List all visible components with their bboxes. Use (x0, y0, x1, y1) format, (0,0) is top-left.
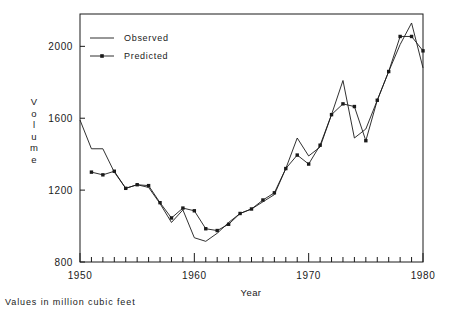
y-axis-title-letter: V (26, 96, 42, 108)
series-marker-predicted (227, 223, 230, 226)
series-marker-predicted (124, 187, 127, 190)
chart-figure: 1950196019701980 800120016002000 Observe… (0, 0, 459, 320)
x-tick-label: 1950 (68, 270, 93, 281)
y-axis-title-letter: o (26, 108, 42, 120)
y-axis-title-letter: e (26, 154, 42, 166)
series-marker-predicted (364, 139, 367, 142)
y-axis-title-letter: l (26, 119, 42, 131)
series-marker-predicted (398, 35, 401, 38)
series-marker-predicted (296, 153, 299, 156)
volume-line-chart: 1950196019701980 800120016002000 Observe… (0, 0, 459, 320)
series-marker-predicted (170, 216, 173, 219)
series-marker-predicted (204, 227, 207, 230)
series-marker-predicted (261, 198, 264, 201)
series-marker-predicted (307, 162, 310, 165)
x-tick-label: 1980 (411, 270, 436, 281)
series-marker-predicted (135, 183, 138, 186)
series-marker-predicted (341, 102, 344, 105)
series-marker-predicted (147, 184, 150, 187)
x-axis-title: Year (241, 287, 262, 298)
legend-label-observed: Observed (124, 33, 169, 43)
legend-label-predicted: Predicted (124, 51, 168, 61)
series-marker-predicted (353, 105, 356, 108)
x-tick-label: 1960 (182, 270, 207, 281)
series-marker-predicted (284, 167, 287, 170)
series-marker-predicted (421, 49, 424, 52)
series-marker-predicted (330, 113, 333, 116)
series-marker-predicted (410, 35, 413, 38)
y-tick-label: 800 (55, 257, 74, 268)
y-tick-label: 1600 (48, 113, 73, 124)
legend-swatch-marker-predicted (100, 54, 104, 58)
series-marker-predicted (158, 201, 161, 204)
y-tick-label: 2000 (48, 41, 73, 52)
y-axis-title-letter: m (26, 142, 42, 154)
series-marker-predicted (193, 209, 196, 212)
series-marker-predicted (387, 70, 390, 73)
series-marker-predicted (113, 170, 116, 173)
x-tick-label: 1970 (296, 270, 321, 281)
series-marker-predicted (273, 191, 276, 194)
series-marker-predicted (250, 207, 253, 210)
series-marker-predicted (238, 212, 241, 215)
series-marker-predicted (318, 143, 321, 146)
series-marker-predicted (216, 229, 219, 232)
series-marker-predicted (376, 99, 379, 102)
series-marker-predicted (90, 170, 93, 173)
series-marker-predicted (101, 173, 104, 176)
y-axis-title: Volume (26, 96, 42, 165)
series-marker-predicted (181, 206, 184, 209)
y-axis-title-letter: u (26, 131, 42, 143)
y-tick-label: 1200 (48, 185, 73, 196)
chart-footnote: Values in million cubic feet (5, 297, 136, 307)
